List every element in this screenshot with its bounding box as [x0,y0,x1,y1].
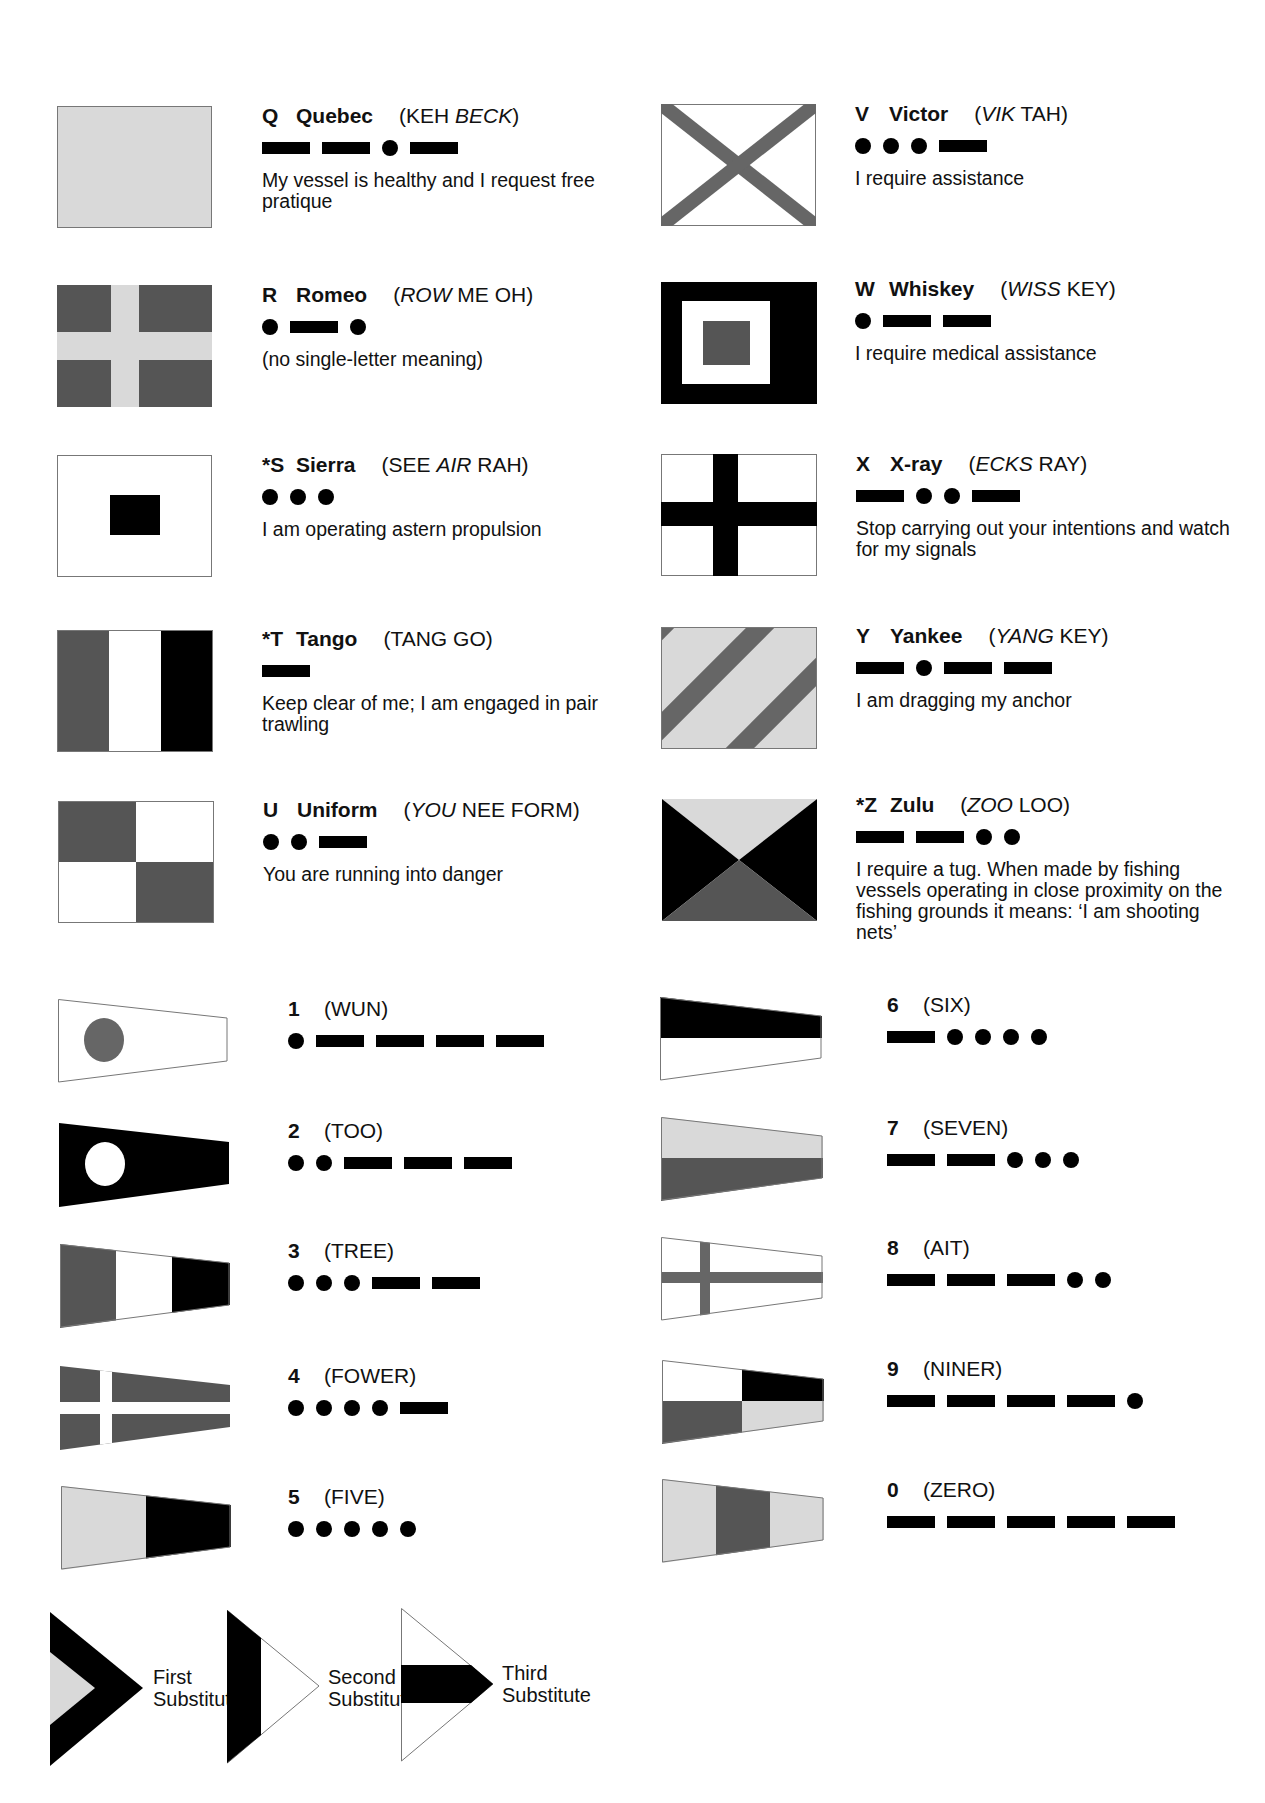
pennant-1 [58,999,228,1083]
morse-code [856,656,1236,680]
morse-dot-icon [1003,1029,1019,1045]
pennant-3 [60,1244,230,1328]
morse-dot-icon [316,1400,332,1416]
entry-numeral-9: 9(NINER) [887,1357,1143,1413]
letter-name: Sierra [296,453,356,476]
pennant-6 [660,997,830,1081]
meaning: (no single-letter meaning) [262,349,642,370]
morse-code [855,309,1235,333]
morse-code [288,1396,448,1420]
morse-dash-icon [972,490,1020,502]
morse-code [288,1271,480,1295]
morse-code [887,1025,1047,1049]
morse-dash-icon [262,665,310,677]
morse-dash-icon [400,1402,448,1414]
morse-dot-icon [1031,1029,1047,1045]
meaning: I am operating astern propulsion [262,519,642,540]
pronunciation: (YANG KEY) [988,624,1108,647]
numeral-code: 8 [887,1236,923,1260]
morse-dash-icon [344,1157,392,1169]
morse-dot-icon [947,1029,963,1045]
morse-dash-icon [856,662,904,674]
flag-t-tango [57,630,213,752]
morse-dot-icon [288,1521,304,1537]
morse-dot-icon [288,1275,304,1291]
pronunciation: (WISS KEY) [1000,277,1116,300]
morse-dash-icon [947,1274,995,1286]
numeral-code: 9 [887,1357,923,1381]
entry-numeral-5: 5(FIVE) [288,1485,416,1541]
pronunciation: (YOU NEE FORM) [404,798,580,821]
morse-dot-icon [344,1521,360,1537]
morse-dot-icon [1067,1272,1083,1288]
morse-code [262,659,642,683]
morse-dot-icon [975,1029,991,1045]
morse-dash-icon [943,315,991,327]
substitute-3-label: ThirdSubstitute [502,1662,591,1706]
pronunciation: (SIX) [923,993,971,1016]
flag-y-yankee [661,627,817,749]
morse-dot-icon [916,660,932,676]
morse-dot-icon [316,1521,332,1537]
morse-dash-icon [372,1277,420,1289]
pronunciation: (TREE) [324,1239,394,1262]
morse-dash-icon [1007,1274,1055,1286]
morse-dot-icon [372,1400,388,1416]
letter-name: Zulu [890,793,934,816]
morse-dot-icon [288,1033,304,1049]
pronunciation: (WUN) [324,997,388,1020]
morse-dot-icon [400,1521,416,1537]
morse-dash-icon [1067,1395,1115,1407]
morse-dot-icon [916,488,932,504]
entry-numeral-0: 0(ZERO) [887,1478,1175,1534]
letter-name: Romeo [296,283,367,306]
morse-dash-icon [1127,1516,1175,1528]
morse-dash-icon [262,142,310,154]
letter-name: Victor [889,102,948,125]
morse-dot-icon [344,1400,360,1416]
letter-code: U [263,798,297,822]
morse-dot-icon [1063,1152,1079,1168]
pronunciation: (ZOO LOO) [960,793,1070,816]
letter-code: *T [262,627,296,651]
numeral-code: 5 [288,1485,324,1509]
morse-dot-icon [883,138,899,154]
entry-numeral-2: 2(TOO) [288,1119,512,1175]
morse-code [887,1510,1175,1534]
meaning: Keep clear of me; I am engaged in pair t… [262,693,642,735]
numeral-code: 6 [887,993,923,1017]
pennant-7 [661,1117,831,1201]
morse-dot-icon [316,1275,332,1291]
morse-dash-icon [947,1516,995,1528]
pronunciation: (AIT) [923,1236,970,1259]
pronunciation: (TOO) [324,1119,383,1142]
morse-code [887,1148,1079,1172]
meaning: I require medical assistance [855,343,1235,364]
pennant-4 [60,1366,230,1450]
morse-code [887,1389,1143,1413]
letter-code: X [856,452,890,476]
pennant-8 [661,1237,831,1321]
pennant-5 [61,1486,231,1570]
morse-dash-icon [432,1277,480,1289]
morse-dash-icon [1004,662,1052,674]
morse-dash-icon [1007,1395,1055,1407]
morse-code [263,830,643,854]
numeral-code: 3 [288,1239,324,1263]
morse-dot-icon [372,1521,388,1537]
numeral-code: 0 [887,1478,923,1502]
morse-dash-icon [322,142,370,154]
morse-dash-icon [290,321,338,333]
pronunciation: (NINER) [923,1357,1002,1380]
morse-dot-icon [382,140,398,156]
substitute-3-flag [401,1608,496,1762]
morse-dot-icon [262,319,278,335]
pennant-2 [59,1123,229,1207]
morse-dot-icon [290,489,306,505]
morse-code [288,1151,512,1175]
morse-dot-icon [1004,829,1020,845]
flag-u-uniform [58,801,214,923]
morse-dash-icon [947,1154,995,1166]
morse-dot-icon [291,834,307,850]
entry-victor: VVictor(VIK TAH) I require assistance [855,102,1235,189]
